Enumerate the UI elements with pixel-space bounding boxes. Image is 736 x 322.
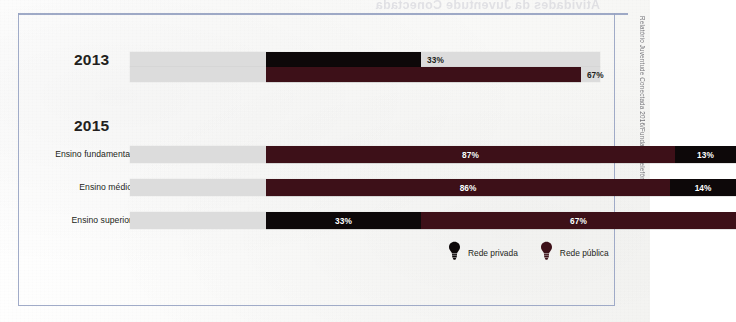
bar-2013-rede-privada[interactable]: 33% <box>266 52 421 67</box>
legend-item-rede-privada[interactable]: Rede privada <box>448 241 518 264</box>
bar-ensino-medio[interactable]: 86% 14% <box>266 179 736 196</box>
bar-value-label: 33% <box>427 55 444 65</box>
bar-2013-rede-publica[interactable]: 67% <box>266 67 581 82</box>
bar-track-2013-publica: 67% <box>130 67 600 82</box>
bar-segment-rede-publica: 86% <box>266 179 670 196</box>
bar-segment-rede-privada: 33% <box>266 212 421 229</box>
bar-value-label: 13% <box>697 150 714 160</box>
bar-ensino-superior[interactable]: 33% 67% <box>266 212 736 229</box>
bar-ensino-fundamental[interactable]: 87% 13% <box>266 146 736 163</box>
legend-item-rede-publica[interactable]: Rede pública <box>540 241 609 264</box>
group-title-2015: 2015 <box>74 117 109 135</box>
bar-value-label: 33% <box>335 216 352 226</box>
bar-segment-rede-publica: 67% <box>266 67 581 82</box>
legend-label: Rede privada <box>468 248 518 258</box>
bar-segment-rede-privada: 33% <box>266 52 421 67</box>
bar-value-label: 67% <box>570 216 587 226</box>
bar-value-label: 67% <box>587 70 604 80</box>
bar-track-ensino-fundamental: 87% 13% <box>130 146 600 163</box>
lightbulb-icon <box>448 241 461 264</box>
bar-segment-rede-privada: 13% <box>675 146 736 163</box>
group-title-2013: 2013 <box>74 51 109 69</box>
bar-value-label: 87% <box>462 150 479 160</box>
bar-value-label: 86% <box>460 183 477 193</box>
category-label-ensino-fundamental: Ensino fundamental <box>0 149 132 159</box>
bar-track-ensino-medio: 86% 14% <box>130 179 600 196</box>
bar-segment-rede-publica: 67% <box>421 212 736 229</box>
legend-label: Rede pública <box>560 248 609 258</box>
bar-segment-rede-publica: 87% <box>266 146 675 163</box>
bar-track-2013-privada: 33% <box>130 52 600 67</box>
category-label-ensino-medio: Ensino médio <box>0 182 132 192</box>
category-label-ensino-superior: Ensino superior <box>0 215 132 225</box>
bar-value-label: 14% <box>695 183 712 193</box>
chart-legend: Rede privada Rede pública <box>448 241 609 264</box>
bar-track-ensino-superior: 33% 67% <box>130 212 600 229</box>
bar-segment-rede-privada: 14% <box>670 179 736 196</box>
lightbulb-icon <box>540 241 553 264</box>
